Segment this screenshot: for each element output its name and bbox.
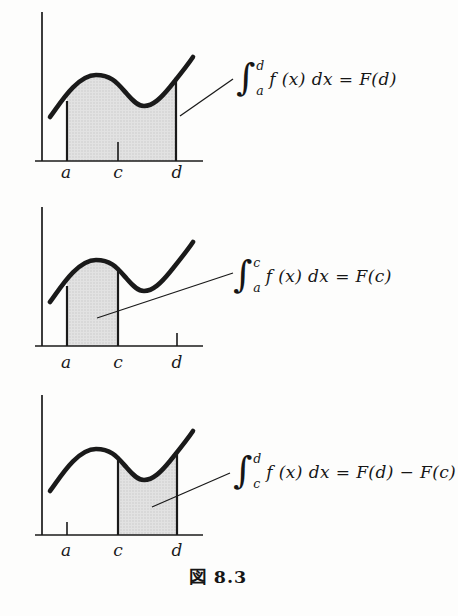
- label-d: d: [172, 162, 183, 182]
- integral-formula-a-to-d: ∫ d a f (x) dx = F(d): [236, 60, 397, 97]
- label-c: c: [113, 162, 123, 182]
- integral-limits: d c: [253, 453, 261, 490]
- shaded-region: [50, 431, 193, 535]
- integral-sign: ∫: [233, 258, 252, 291]
- integral-sign: ∫: [233, 454, 252, 487]
- integral-sign: ∫: [236, 61, 255, 94]
- lower-limit: a: [256, 85, 264, 98]
- leader-line: [180, 79, 233, 116]
- formula-body: f (x) dx = F(c): [266, 266, 392, 286]
- integral-limits: d a: [256, 60, 264, 97]
- figure-canvas: a c d ∫ d a f (x) dx = F(d) a c d: [0, 0, 458, 616]
- upper-limit: d: [256, 60, 264, 73]
- label-d: d: [172, 540, 183, 560]
- label-d: d: [172, 352, 183, 372]
- label-a: a: [61, 352, 71, 372]
- label-c: c: [113, 352, 123, 372]
- figure-caption: 図 8.3: [0, 563, 436, 588]
- lower-limit: a: [253, 282, 260, 295]
- formula-body: f (x) dx = F(d) − F(c): [266, 462, 456, 482]
- upper-limit: c: [253, 257, 260, 270]
- integral-formula-a-to-c: ∫ c a f (x) dx = F(c): [233, 257, 392, 294]
- shaded-region: [50, 57, 193, 161]
- label-c: c: [113, 540, 123, 560]
- lower-limit: c: [253, 478, 261, 491]
- upper-limit: d: [253, 453, 261, 466]
- integral-limits: c a: [253, 257, 260, 294]
- label-a: a: [61, 162, 71, 182]
- label-a: a: [61, 540, 71, 560]
- formula-body: f (x) dx = F(d): [269, 69, 396, 89]
- integral-formula-c-to-d: ∫ d c f (x) dx = F(d) − F(c): [233, 453, 456, 490]
